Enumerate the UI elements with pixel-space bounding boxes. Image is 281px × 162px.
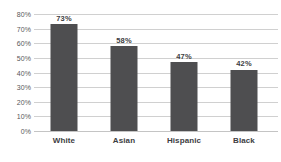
bar-white[interactable] xyxy=(51,24,78,131)
x-axis-category-labels: White Asian Hispanic Black xyxy=(34,136,278,152)
y-axis-tick-label: 40% xyxy=(17,69,31,76)
bar-value-label: 47% xyxy=(176,52,191,61)
x-axis-label-asian: Asian xyxy=(94,136,154,145)
bar-black[interactable] xyxy=(231,70,258,131)
bar-asian[interactable] xyxy=(111,46,138,131)
bar-series: 73% 58% 47% 42% xyxy=(34,14,278,131)
bar-slot-asian: 58% xyxy=(102,14,146,131)
x-axis-label-hispanic: Hispanic xyxy=(154,136,214,145)
gridline-baseline xyxy=(34,131,278,132)
y-axis-tick-label: 20% xyxy=(17,98,31,105)
y-axis-tick-label: 60% xyxy=(17,40,31,47)
bar-slot-white: 73% xyxy=(42,14,86,131)
bar-value-label: 73% xyxy=(56,14,71,23)
y-axis-tick-label: 80% xyxy=(17,11,31,18)
bar-value-label: 58% xyxy=(116,36,131,45)
bar-slot-hispanic: 47% xyxy=(162,14,206,131)
y-axis-tick-label: 10% xyxy=(17,113,31,120)
bar-chart: 80% 70% 60% 50% 40% 30% 20% 10% 0% 73% 5… xyxy=(0,0,281,162)
bar-hispanic[interactable] xyxy=(171,62,198,131)
y-axis-tick-label: 30% xyxy=(17,84,31,91)
bar-value-label: 42% xyxy=(236,59,251,68)
y-axis-tick-label: 0% xyxy=(21,128,31,135)
x-axis-label-black: Black xyxy=(214,136,274,145)
bar-slot-black: 42% xyxy=(222,14,266,131)
y-axis-tick-labels: 80% 70% 60% 50% 40% 30% 20% 10% 0% xyxy=(0,0,34,162)
y-axis-tick-label: 70% xyxy=(17,25,31,32)
x-axis-label-white: White xyxy=(34,136,94,145)
y-axis-tick-label: 50% xyxy=(17,54,31,61)
